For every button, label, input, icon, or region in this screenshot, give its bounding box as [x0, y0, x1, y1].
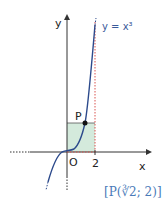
caption: [P(∛2; 2)] [104, 184, 162, 199]
tick-label-2: 2 [92, 157, 99, 170]
x-axis-arrow-icon [146, 149, 152, 155]
x-axis-label: x [139, 160, 146, 173]
point-p-label: P [75, 110, 82, 123]
cubic-function-diagram: y x O 2 P y = x³ [P(∛2; 2)] [0, 0, 164, 205]
y-axis-label: y [55, 17, 62, 30]
origin-label: O [69, 156, 78, 169]
curve-dotted-end-bottom [46, 182, 48, 190]
curve-equation-label: y = x³ [102, 21, 133, 32]
curve-dotted-end-top [95, 18, 96, 25]
point-p [83, 121, 88, 126]
y-axis-arrow-icon [64, 14, 70, 20]
